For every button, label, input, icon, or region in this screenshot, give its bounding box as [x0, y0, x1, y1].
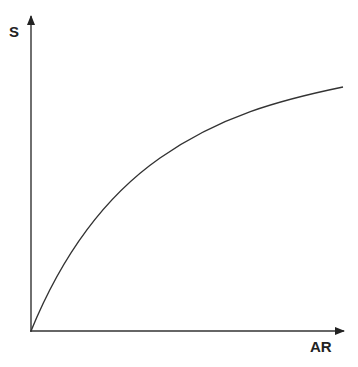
y-axis-label: S — [9, 23, 19, 40]
x-axis-label: AR — [310, 338, 332, 355]
data-curve — [31, 87, 343, 331]
chart-canvas — [0, 0, 358, 367]
